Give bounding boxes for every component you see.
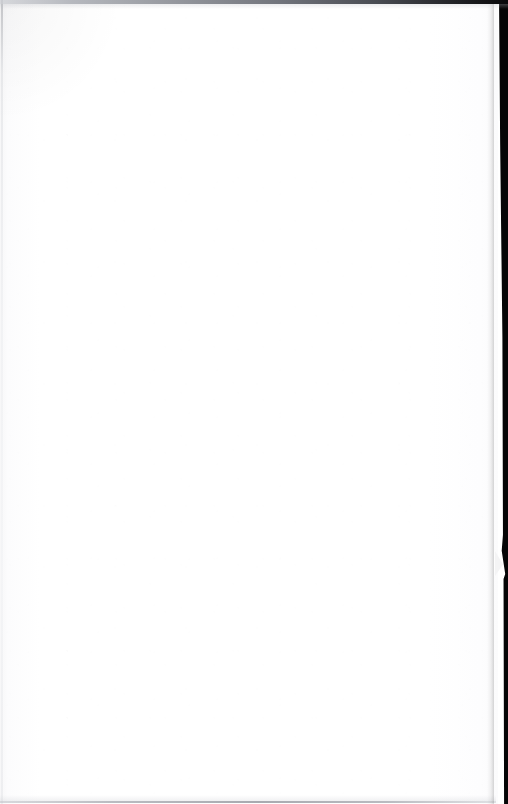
page-content-area [14,14,484,790]
scanned-sheet [0,0,498,804]
scanned-page-canvas [0,0,508,804]
